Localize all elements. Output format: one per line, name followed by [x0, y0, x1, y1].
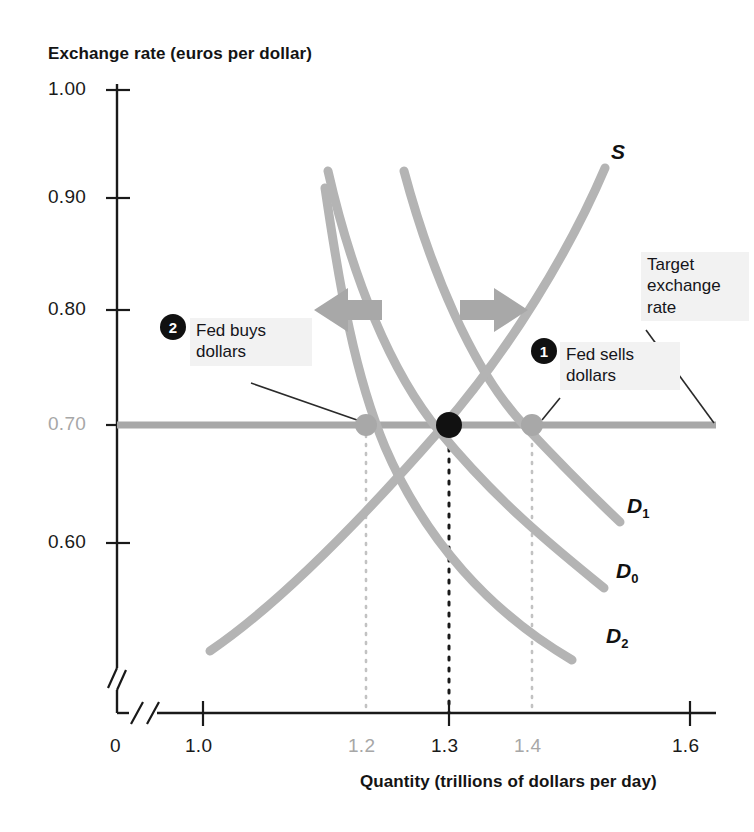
annotation-target-line2: exchange	[647, 275, 743, 296]
y-axis-break	[108, 668, 126, 690]
annotation-fed-sells-line1: Fed sells	[566, 344, 674, 365]
annotation-fed-buys-line2: dollars	[196, 341, 306, 362]
x-tick-label-1.4: 1.4	[514, 735, 541, 757]
x-axis-break	[131, 702, 159, 724]
curve-label-d1-text: D	[627, 494, 642, 517]
annotation-target-line3: rate	[647, 297, 743, 318]
fed-sells-point	[521, 414, 543, 436]
annotation-badge-2: 2	[160, 314, 186, 340]
curve-label-d0-sub: 0	[631, 571, 638, 586]
curve-label-s: S	[611, 140, 625, 164]
annotation-fed-sells: Fed sells dollars	[560, 342, 680, 390]
shift-left-arrow	[314, 288, 382, 332]
annotation-target-line1: Target	[647, 254, 743, 275]
y-tick-label-0.90: 0.90	[48, 186, 86, 208]
annotation-fed-buys: Fed buys dollars	[190, 318, 312, 366]
annotation-fed-buys-line1: Fed buys	[196, 320, 306, 341]
exchange-rate-chart: Exchange rate (euros per dollar) 1.00 0.…	[0, 0, 754, 832]
x-axis-title: Quantity (trillions of dollars per day)	[360, 772, 657, 792]
initial-equilibrium-point	[436, 412, 462, 438]
x-tick-label-1.0: 1.0	[185, 735, 212, 757]
annotation-badge-1: 1	[531, 338, 557, 364]
leader-line-fed-sells	[542, 398, 560, 420]
y-tick-label-0.70: 0.70	[48, 413, 86, 435]
annotation-fed-sells-line2: dollars	[566, 365, 674, 386]
curve-label-d1-sub: 1	[642, 506, 649, 521]
y-tick-label-1.00: 1.00	[48, 78, 86, 100]
curve-label-d2-text: D	[606, 624, 621, 647]
fed-buys-point	[355, 414, 377, 436]
x-tick-label-0: 0	[110, 735, 121, 757]
leader-line-fed-buys	[251, 383, 357, 420]
y-tick-label-0.60: 0.60	[48, 531, 86, 553]
x-tick-label-1.2: 1.2	[348, 735, 375, 757]
curve-label-d0: D0	[616, 559, 638, 586]
chart-canvas	[0, 0, 754, 832]
curve-label-d2-sub: 2	[621, 636, 628, 651]
annotation-target-exchange-rate: Target exchange rate	[641, 252, 749, 321]
y-tick-label-0.80: 0.80	[48, 298, 86, 320]
x-tick-label-1.3: 1.3	[431, 735, 458, 757]
supply-curve-s	[210, 168, 605, 651]
curve-label-d1: D1	[627, 494, 649, 521]
curve-label-d0-text: D	[616, 559, 631, 582]
y-axis-title: Exchange rate (euros per dollar)	[48, 44, 312, 64]
curve-label-d2: D2	[606, 624, 628, 651]
x-tick-label-1.6: 1.6	[672, 735, 699, 757]
